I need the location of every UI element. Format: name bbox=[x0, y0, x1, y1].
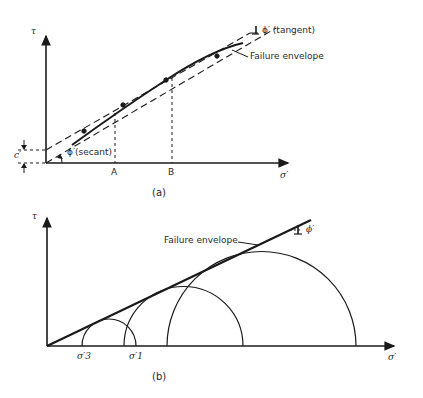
sigma1-label: σ′1 bbox=[129, 352, 143, 361]
data-point bbox=[164, 78, 168, 82]
secant-angle-label: ϕ′(secant) bbox=[67, 148, 112, 157]
data-point bbox=[215, 54, 219, 58]
phi-angle-label: ϕ′ bbox=[306, 225, 314, 234]
panel-b-envelope-label: Failure envelope bbox=[164, 236, 238, 245]
panel-b-caption: (b) bbox=[152, 372, 166, 382]
sigma3-label: σ′3 bbox=[77, 352, 91, 361]
panel-b-sigma-label: σ′ bbox=[388, 353, 396, 362]
envelope-leader-b bbox=[238, 242, 258, 245]
panel-a-tau-label: τ bbox=[31, 27, 36, 36]
panel-b-tau-label: τ bbox=[32, 212, 37, 221]
marker-b-label: B bbox=[168, 168, 174, 177]
tangent-angle-label: ϕ′ (tangent) bbox=[262, 26, 315, 35]
data-point bbox=[121, 103, 125, 107]
panel-a bbox=[18, 26, 288, 173]
panel-a-caption: (a) bbox=[152, 188, 166, 198]
c-prime-label: c′ bbox=[14, 151, 21, 160]
data-point bbox=[82, 129, 86, 133]
figure-canvas bbox=[0, 0, 423, 398]
mohr-circle-medium bbox=[124, 287, 243, 346]
secant-line bbox=[46, 28, 276, 163]
mohr-circle-large bbox=[167, 251, 356, 346]
panel-a-envelope-label: Failure envelope bbox=[250, 52, 324, 61]
marker-a-label: A bbox=[111, 168, 117, 177]
panel-a-sigma-label: σ′ bbox=[280, 171, 288, 180]
envelope-leader-a bbox=[232, 50, 248, 57]
